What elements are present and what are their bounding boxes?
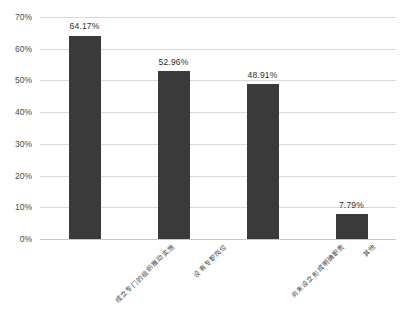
y-axis-tick-label: 70% (15, 12, 32, 22)
y-axis-tick-label: 30% (15, 139, 32, 149)
axis-baseline (40, 239, 396, 240)
y-axis-tick-label: 20% (15, 171, 32, 181)
bar-value-label: 7.79% (339, 200, 364, 210)
x-axis-category-label: 设有专职岗位 (192, 243, 228, 279)
y-axis-tick-label: 60% (15, 44, 32, 54)
bar (69, 36, 101, 240)
bar (247, 84, 279, 239)
x-axis-category-label: 尚未设立形成明确职责 (290, 243, 346, 299)
bar-value-label: 64.17% (69, 21, 99, 31)
bar (336, 214, 368, 239)
bar-chart: 0%10%20%30%40%50%60%70% 64.17%52.96%48.9… (0, 0, 414, 330)
y-axis-tick-label: 0% (20, 234, 32, 244)
x-axis-category-label: 成立专门的组织推动实施 (114, 243, 175, 304)
bar (158, 71, 190, 239)
bar-value-label: 52.96% (158, 57, 188, 67)
x-axis-category-label: 其他 (362, 243, 377, 258)
bar-value-label: 48.91% (247, 70, 277, 80)
y-axis-tick-labels: 0%10%20%30%40%50%60%70% (0, 0, 36, 330)
y-axis-tick-label: 40% (15, 107, 32, 117)
y-axis-tick-label: 50% (15, 75, 32, 85)
y-axis-tick-label: 10% (15, 202, 32, 212)
gridline (40, 17, 396, 18)
